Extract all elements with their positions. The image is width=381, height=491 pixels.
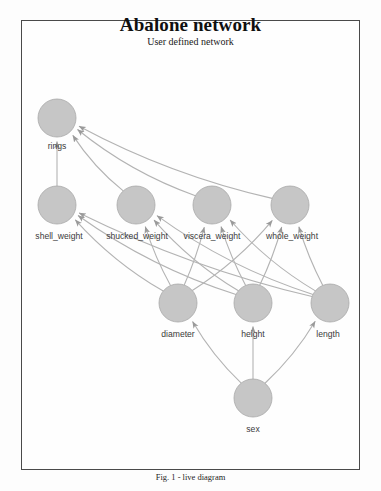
graph-node-sex[interactable] <box>234 379 272 417</box>
graph-node-label-height: height <box>241 329 265 339</box>
diagram-page: Abalone network User defined network rin… <box>0 0 381 491</box>
graph-node-label-whole_weight: whole_weight <box>265 231 319 241</box>
graph-edge <box>265 321 315 383</box>
graph-node-height[interactable] <box>234 284 272 322</box>
graph-node-shell_weight[interactable] <box>38 186 76 224</box>
graph-node-shucked_weight[interactable] <box>117 186 155 224</box>
graph-node-whole_weight[interactable] <box>271 186 309 224</box>
graph-node-label-shucked_weight: shucked_weight <box>106 231 168 241</box>
graph-node-label-length: length <box>316 329 340 339</box>
graph-edge <box>73 135 123 191</box>
nodes-layer <box>38 99 349 417</box>
network-graph: ringsshell_weightshucked_weightviscera_w… <box>21 20 360 470</box>
graph-edge <box>78 216 236 295</box>
graph-node-rings[interactable] <box>38 99 76 137</box>
figure-caption: Fig. 1 - live diagram <box>0 472 381 482</box>
graph-edge <box>157 216 313 295</box>
graph-node-diameter[interactable] <box>159 284 197 322</box>
graph-edge <box>193 321 242 383</box>
edges-layer <box>57 126 323 383</box>
graph-node-label-shell_weight: shell_weight <box>35 231 83 241</box>
graph-node-label-rings: rings <box>48 141 67 151</box>
graph-node-label-viscera_weight: viscera_weight <box>184 231 241 241</box>
graph-node-label-sex: sex <box>246 424 260 434</box>
graph-node-label-diameter: diameter <box>161 329 195 339</box>
graph-node-length[interactable] <box>311 284 349 322</box>
graph-node-viscera_weight[interactable] <box>193 186 231 224</box>
